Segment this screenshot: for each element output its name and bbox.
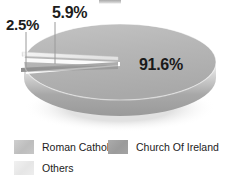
legend-label-roman-catholic: Roman Catholic	[42, 140, 117, 154]
pie-chart-figure: 2.5% 5.9% 91.6% Roman Catholic Church Of…	[0, 0, 230, 185]
others-swatch	[14, 161, 34, 175]
roman-catholic-swatch	[14, 140, 34, 154]
legend-item-others[interactable]: Others	[14, 161, 74, 175]
legend-label-others: Others	[42, 161, 74, 175]
value-label-church-of-ireland: 5.9%	[52, 4, 87, 22]
value-label-others: 2.5%	[6, 16, 39, 33]
legend-label-church-of-ireland: Church Of Ireland	[136, 140, 219, 154]
church-of-ireland-swatch	[108, 140, 128, 154]
value-label-roman-catholic: 91.6%	[139, 56, 183, 74]
chart-legend: Roman Catholic Church Of Ireland Others	[0, 140, 230, 185]
legend-item-roman-catholic[interactable]: Roman Catholic	[14, 140, 117, 154]
chart-plot-area: 2.5% 5.9% 91.6%	[0, 0, 230, 140]
legend-item-church-of-ireland[interactable]: Church Of Ireland	[108, 140, 219, 154]
